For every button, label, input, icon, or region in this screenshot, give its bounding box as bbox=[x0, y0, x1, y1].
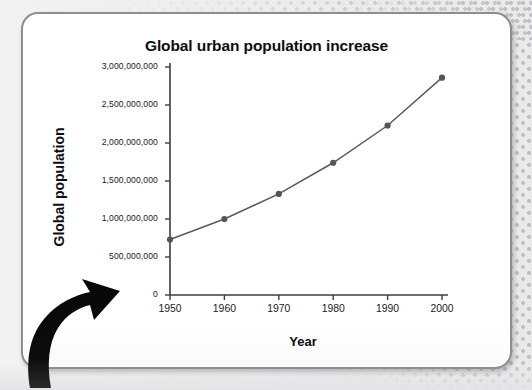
y-tick-label: 0 bbox=[153, 289, 158, 299]
y-tick-label: 500,000,000 bbox=[109, 251, 158, 261]
y-tick-label: 2,000,000,000 bbox=[102, 137, 158, 147]
y-tick-label: 1,000,000,000 bbox=[102, 213, 158, 223]
axes-group bbox=[165, 63, 448, 300]
decorative-arrow bbox=[16, 278, 126, 390]
y-tick-label: 2,500,000,000 bbox=[102, 99, 158, 109]
x-tick-label: 1990 bbox=[366, 303, 410, 314]
y-tick-label: 1,500,000,000 bbox=[102, 175, 158, 185]
y-tick-label: 3,000,000,000 bbox=[102, 61, 158, 71]
x-tick-label: 1970 bbox=[257, 303, 301, 314]
arrow-shape bbox=[28, 279, 120, 388]
x-tick-label: 2000 bbox=[420, 303, 464, 314]
curved-up-right-arrow-icon bbox=[16, 278, 126, 390]
x-tick-label: 1950 bbox=[148, 303, 192, 314]
data-series-line bbox=[167, 75, 445, 243]
slide-screenshot: Global urban population increase Global … bbox=[0, 0, 532, 390]
x-tick-label: 1980 bbox=[311, 303, 355, 314]
x-tick-label: 1960 bbox=[202, 303, 246, 314]
